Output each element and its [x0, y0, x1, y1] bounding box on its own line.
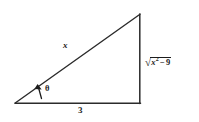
radicand-group: x2−9	[150, 57, 171, 67]
base-length-label: 3	[78, 106, 83, 115]
opposite-side-radical-label: √ x2−9	[145, 57, 171, 68]
radicand-constant: 9	[166, 57, 170, 67]
triangle-hypotenuse-side	[15, 14, 140, 103]
angle-theta-label: θ	[45, 84, 50, 93]
figure-canvas: x 3 θ √ x2−9	[0, 0, 199, 122]
radicand-minus-sign: −	[159, 57, 166, 67]
hypotenuse-label: x	[63, 41, 68, 50]
